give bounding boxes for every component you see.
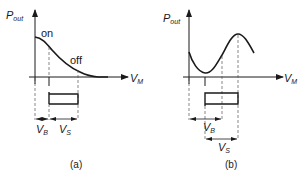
panel-b-pulse xyxy=(205,93,238,106)
panel-b-x-label: VM xyxy=(284,72,297,85)
panel-a-on-label: on xyxy=(41,27,53,39)
panel-a-y-label: Pout xyxy=(6,9,24,22)
panel-b: Pout VM VB VS (b) xyxy=(163,10,297,170)
diagram-canvas: Pout VM on off VB VS (a) Pout VM VB VS (… xyxy=(0,0,308,180)
panel-a-vs-label: VS xyxy=(59,123,71,136)
panel-a-off-label: off xyxy=(70,54,83,66)
panel-b-caption: (b) xyxy=(225,159,237,170)
panel-b-power-curve xyxy=(189,34,254,73)
panel-a-vb-label: VB xyxy=(36,123,48,136)
panel-b-y-label: Pout xyxy=(163,12,181,25)
panel-a: Pout VM on off VB VS (a) xyxy=(6,9,143,170)
panel-a-x-label: VM xyxy=(130,72,143,85)
panel-a-caption: (a) xyxy=(70,159,82,170)
panel-b-vb-label: VB xyxy=(203,121,215,134)
panel-a-pulse xyxy=(49,92,78,104)
panel-b-vs-label: VS xyxy=(218,141,230,154)
